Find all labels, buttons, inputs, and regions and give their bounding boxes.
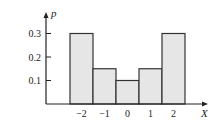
x-tick-label: 1 (148, 108, 153, 119)
bar (116, 81, 139, 105)
y-axis-arrow-icon (44, 12, 49, 18)
y-tick-label: 0.1 (29, 75, 42, 86)
x-tick-label: −1 (99, 108, 110, 119)
probability-histogram: 0.10.20.3 −2−1012 p X (0, 0, 220, 126)
x-tick-label: 2 (171, 108, 176, 119)
x-axis-label: X (200, 107, 209, 119)
bar (70, 34, 93, 105)
bar (93, 69, 116, 104)
bars-group (70, 34, 185, 105)
y-tick-label: 0.3 (29, 28, 42, 39)
x-tick-label: −2 (76, 108, 87, 119)
x-axis-arrow-icon (202, 102, 208, 107)
y-ticks-group: 0.10.20.3 (29, 28, 52, 86)
bar (162, 34, 185, 105)
x-tick-label: 0 (125, 108, 130, 119)
y-tick-label: 0.2 (29, 52, 42, 63)
y-axis-label: p (50, 7, 57, 19)
bar (139, 69, 162, 104)
x-ticks-group: −2−1012 (76, 108, 176, 119)
